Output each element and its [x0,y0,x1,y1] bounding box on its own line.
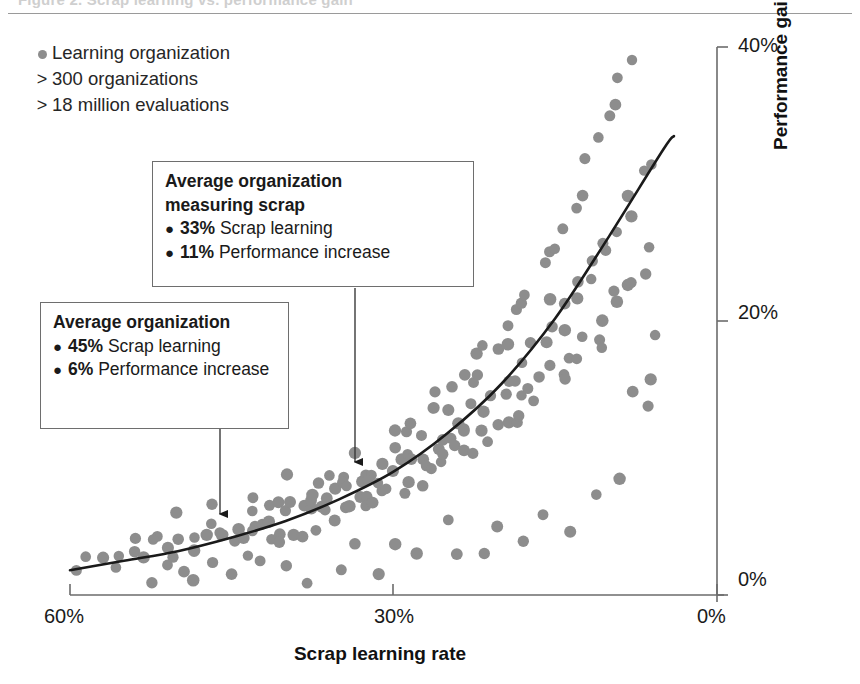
scatter-point [612,72,623,83]
scatter-point [519,290,530,301]
callout-measuring-item-2: ● 11% Performance increase [165,241,462,265]
scatter-point [458,425,470,437]
scatter-point [571,203,582,214]
scatter-point [255,555,266,566]
bullet-icon: ● [53,335,68,359]
scatter-point [281,468,293,480]
scatter-point [302,578,313,589]
bullet-icon: ● [165,241,180,265]
scatter-point [207,557,218,568]
y-axis-title: Performance gain due to learning [770,0,792,150]
scatter-point [343,500,355,512]
scatter-point [446,381,458,393]
scatter-point [557,223,568,234]
callout-measuring-value-1: 33% [180,218,215,238]
scatter-point [501,389,512,400]
scatter-point [644,242,655,253]
scatter-point [482,436,493,447]
scatter-point [544,360,555,371]
scatter-point [402,476,414,488]
y-tick-label-20: 20% [738,301,778,324]
scatter-point [381,483,392,494]
scatter-point [538,509,549,520]
scatter-point [273,536,285,548]
callout-average-text-2: Performance increase [93,359,269,379]
scatter-point [187,574,200,587]
scatter-point [306,489,318,501]
scatter-point [596,314,609,327]
scatter-point [349,538,361,550]
figure-container: Figure 2. Scrap learning vs. performance… [0,0,860,684]
callout-average-value-1: 45% [68,336,103,356]
scatter-point [577,190,589,202]
scatter-point [367,497,379,509]
scatter-point [533,371,545,383]
scatter-point [513,410,524,421]
scatter-point [472,369,483,380]
callout-measuring-text-2: Performance increase [214,242,390,262]
scatter-point [410,547,422,559]
scatter-point [611,295,624,308]
scatter-point [214,527,225,538]
scatter-point [97,552,109,564]
scatter-point [467,448,478,459]
scatter-point [437,449,448,460]
scatter-point [226,568,238,580]
scatter-point [284,496,296,508]
scatter-point [247,506,258,517]
callout-average-text-1: Scrap learning [103,336,221,356]
scatter-point [503,320,514,331]
scatter-point [405,417,417,429]
scatter-point [597,342,608,353]
scatter-point [114,551,125,562]
scatter-point [625,210,637,222]
scatter-point [178,566,190,578]
callout-measuring-value-2: 11% [180,242,214,262]
scatter-point [627,386,639,398]
scatter-point [540,257,551,268]
scatter-point [206,519,217,530]
scatter-point [443,515,454,526]
scatter-point [528,395,539,406]
scatter-point [247,492,258,503]
scatter-point [643,401,654,412]
scatter-point [341,481,352,492]
scatter-point [610,99,622,111]
scatter-point [146,577,157,588]
scatter-point [593,132,604,143]
scatter-point [389,442,401,454]
scatter-point [281,560,292,571]
scatter-point [313,477,324,488]
scatter-point [170,506,182,518]
scatter-point [417,480,429,492]
scatter-point [336,564,347,575]
scatter-point [130,533,141,544]
callout-average-organization: Average organization ● 45% Scrap learnin… [40,302,289,429]
scatter-point [627,55,637,65]
scatter-point [475,425,487,437]
scatter-point [206,499,217,510]
callout-measuring-text-1: Scrap learning [215,218,333,238]
scatter-point [550,243,560,253]
scatter-point [172,533,184,545]
scatter-point [591,489,602,500]
x-tick-label-0: 0% [697,605,726,628]
scatter-point [377,458,388,469]
callout-average-item-2: ● 6% Performance increase [53,358,277,382]
scatter-point [459,369,471,381]
scatter-point [389,424,401,436]
scatter-point [613,473,625,485]
scatter-point [559,324,571,336]
scatter-point [477,340,488,351]
scatter-point [626,277,637,288]
scatter-point [442,404,454,416]
scatter-point [465,398,476,409]
bullet-icon: ● [53,358,68,382]
callout-average-value-2: 6% [68,359,93,379]
scatter-point [586,274,596,284]
x-axis-title: Scrap learning rate [0,643,760,665]
scatter-point [297,531,309,543]
scatter-point [373,568,385,580]
scatter-point [80,551,91,562]
scatter-point [426,463,437,474]
